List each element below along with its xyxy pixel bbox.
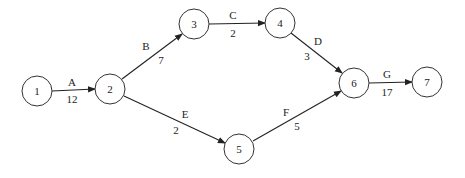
svg-text:7: 7 <box>424 76 430 88</box>
activity-label-f: F <box>283 106 289 118</box>
edge-a <box>52 89 95 91</box>
svg-text:5: 5 <box>236 143 242 155</box>
svg-text:1: 1 <box>34 85 40 97</box>
node-2: 2 <box>95 74 125 104</box>
duration-label-f: 5 <box>294 120 300 132</box>
node-3: 3 <box>179 9 209 39</box>
svg-text:3: 3 <box>191 18 197 30</box>
duration-label-e: 2 <box>173 124 179 136</box>
duration-label-g: 17 <box>382 86 394 98</box>
edge-g <box>369 82 412 83</box>
activity-label-g: G <box>383 68 391 80</box>
svg-text:4: 4 <box>277 17 283 29</box>
duration-label-b: 7 <box>158 54 164 66</box>
node-5: 5 <box>224 134 254 164</box>
duration-label-c: 2 <box>230 27 236 39</box>
edge-b <box>122 34 182 79</box>
edge-f <box>253 91 341 141</box>
duration-label-a: 12 <box>67 93 78 105</box>
node-7: 7 <box>412 67 442 97</box>
svg-text:6: 6 <box>351 77 357 89</box>
network-diagram: A 12 B 7 C 2 D 3 E 2 F 5 G 17 1 2 3 4 5 … <box>0 0 465 178</box>
node-4: 4 <box>265 8 295 38</box>
svg-text:2: 2 <box>107 83 113 95</box>
activity-label-b: B <box>142 40 149 52</box>
node-6: 6 <box>339 68 369 98</box>
activity-label-a: A <box>68 76 76 88</box>
node-1: 1 <box>22 76 52 106</box>
edge-c <box>209 23 265 24</box>
activity-label-d: D <box>314 35 322 47</box>
activity-label-c: C <box>229 9 236 21</box>
duration-label-d: 3 <box>304 50 310 62</box>
activity-label-e: E <box>182 108 189 120</box>
